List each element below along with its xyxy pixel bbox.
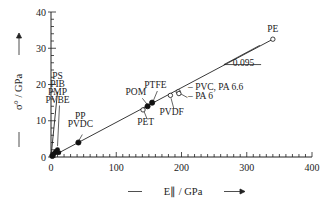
data-point — [141, 108, 145, 112]
data-point — [56, 150, 61, 155]
y-tick-label: 20 — [36, 79, 46, 90]
annotation-label: 0.095 — [233, 58, 255, 68]
y-axis-label: σ° / GPa — [13, 74, 24, 110]
leader-line — [181, 94, 188, 98]
data-point — [51, 152, 56, 157]
annotation-label: PVDC — [68, 119, 93, 129]
y-tick-label: 30 — [36, 43, 46, 54]
data-point — [168, 93, 172, 97]
data-point — [150, 100, 155, 105]
leader-line — [142, 98, 147, 104]
annotation-label: PET — [137, 117, 154, 127]
leader-line — [58, 106, 60, 147]
x-tick-label: 200 — [174, 162, 189, 173]
annotation-label: PTFE — [144, 80, 166, 90]
x-tick-label: 300 — [239, 162, 254, 173]
data-point — [271, 37, 275, 41]
y-tick-label: 10 — [36, 115, 46, 126]
x-axis-label: E∥ / GPa — [164, 186, 203, 198]
leader-line — [153, 91, 157, 100]
annotations: PE0.095PSPIBPMPPVBEPPPVDCPOMPTFEPETPVDF–… — [45, 24, 278, 129]
x-tick-label: 100 — [109, 162, 124, 173]
y-tick-label: 40 — [36, 7, 46, 18]
annotation-label: PE — [267, 24, 278, 34]
annotation-label: PVBE — [45, 95, 69, 105]
annotation-label: PVDF — [160, 107, 184, 117]
annotation-label: – PA 6 — [187, 91, 213, 101]
data-point — [76, 140, 81, 145]
data-point — [145, 104, 150, 109]
leader-line — [79, 135, 82, 141]
x-tick-label: 400 — [305, 162, 320, 173]
fit-line-main — [51, 39, 273, 157]
chart: 0100200300400010203040 PE0.095PSPIBPMPPV… — [0, 0, 331, 204]
x-tick-label: 0 — [49, 162, 54, 173]
data-point — [177, 91, 181, 95]
y-tick-label: 0 — [41, 152, 46, 163]
fit-lines — [51, 39, 273, 157]
